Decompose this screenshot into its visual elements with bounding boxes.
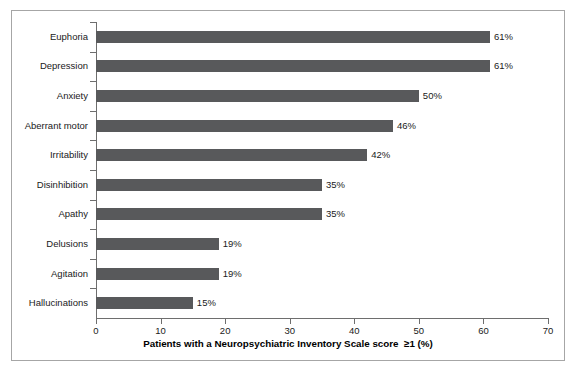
bar-hallucinations	[96, 297, 193, 309]
x-axis-tick-label: 40	[339, 325, 369, 337]
x-axis-tick-label: 10	[146, 325, 176, 337]
bar-euphoria	[96, 31, 490, 43]
x-axis-tick	[419, 319, 420, 324]
bar-value-label: 19%	[223, 238, 242, 250]
y-axis-tick	[90, 170, 96, 171]
y-axis-tick	[90, 22, 96, 23]
y-axis-tick	[90, 288, 96, 289]
x-axis-tick-label: 70	[533, 325, 563, 337]
y-axis-tick	[90, 140, 96, 141]
y-axis-tick	[90, 81, 96, 82]
bar-delusions	[96, 238, 219, 250]
x-axis-line	[96, 318, 549, 319]
x-axis-tick	[161, 319, 162, 324]
category-label-apathy: Apathy	[0, 208, 88, 220]
y-axis-tick	[90, 52, 96, 53]
x-axis-title: Patients with a Neuropsychiatric Invento…	[11, 338, 565, 349]
bar-irritability	[96, 149, 367, 161]
y-axis-tick	[90, 259, 96, 260]
x-axis-tick-label: 20	[210, 325, 240, 337]
bar-value-label: 15%	[197, 297, 216, 309]
bar-value-label: 35%	[326, 179, 345, 191]
category-label-anxiety: Anxiety	[0, 90, 88, 102]
x-axis-tick	[225, 319, 226, 324]
figure: EuphoriaDepressionAnxietyAberrant motorI…	[0, 0, 578, 371]
category-label-euphoria: Euphoria	[0, 31, 88, 43]
bar-value-label: 35%	[326, 208, 345, 220]
bar-value-label: 61%	[494, 31, 513, 43]
bar-depression	[96, 60, 490, 72]
bar-value-label: 46%	[397, 120, 416, 132]
category-label-irritability: Irritability	[0, 149, 88, 161]
y-axis-tick	[90, 200, 96, 201]
bar-value-label: 42%	[371, 149, 390, 161]
x-axis-tick	[96, 319, 97, 324]
x-axis-tick-label: 0	[81, 325, 111, 337]
x-axis-tick	[483, 319, 484, 324]
category-label-disinhibition: Disinhibition	[0, 179, 88, 191]
bar-aberrant-motor	[96, 120, 393, 132]
x-axis-tick-label: 30	[275, 325, 305, 337]
bar-value-label: 19%	[223, 268, 242, 280]
bar-disinhibition	[96, 179, 322, 191]
bar-apathy	[96, 208, 322, 220]
category-label-agitation: Agitation	[0, 268, 88, 280]
x-axis-tick	[548, 319, 549, 324]
x-axis-tick	[354, 319, 355, 324]
x-axis-tick-label: 60	[468, 325, 498, 337]
bar-value-label: 61%	[494, 60, 513, 72]
category-label-hallucinations: Hallucinations	[0, 297, 88, 309]
bar-agitation	[96, 268, 219, 280]
bar-anxiety	[96, 90, 419, 102]
x-axis-tick	[290, 319, 291, 324]
bar-value-label: 50%	[423, 90, 442, 102]
category-label-delusions: Delusions	[0, 238, 88, 250]
y-axis-tick	[90, 111, 96, 112]
category-label-aberrant-motor: Aberrant motor	[0, 120, 88, 132]
y-axis-tick	[90, 229, 96, 230]
x-axis-tick-label: 50	[404, 325, 434, 337]
category-label-depression: Depression	[0, 60, 88, 72]
